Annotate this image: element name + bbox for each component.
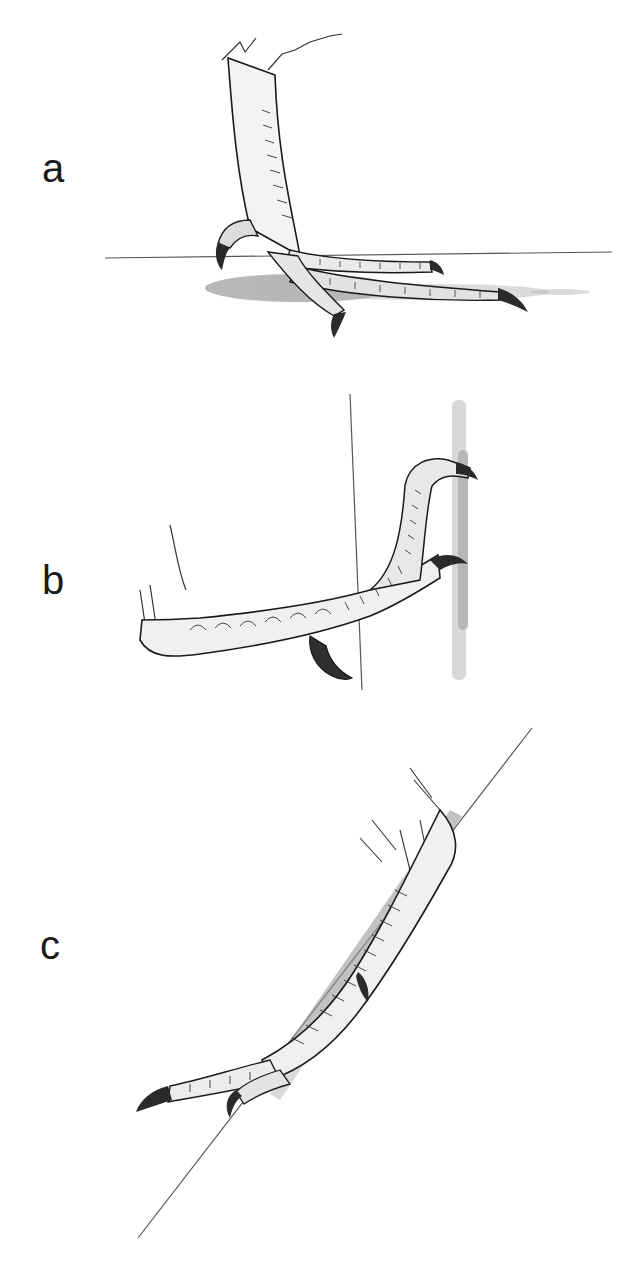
foot-on-inclined-surface-illustration xyxy=(0,720,639,1260)
panel-c-inclined-rest xyxy=(0,720,639,1260)
foot-on-horizontal-surface-illustration xyxy=(0,30,639,350)
foot-on-vertical-surface-illustration xyxy=(0,390,639,700)
panel-a-horizontal-perch xyxy=(0,30,639,350)
panel-b-vertical-cling xyxy=(0,390,639,700)
